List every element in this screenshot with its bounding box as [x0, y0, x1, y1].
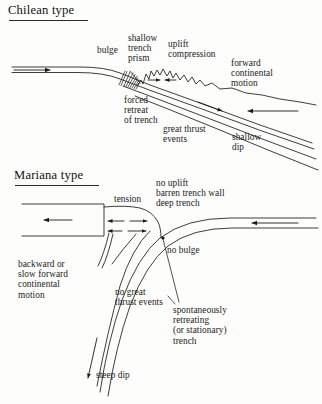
mariana-rift-sliver-3 [112, 234, 136, 264]
chilean-continent-top-surface [137, 69, 316, 105]
diagram-line-art [0, 0, 322, 404]
mariana-oceanic-base [108, 228, 318, 396]
chilean-oceanic-top-surface [12, 67, 312, 143]
chilean-slab-deep-boundary [135, 96, 318, 170]
mariana-trench-leader-line [163, 239, 179, 302]
mariana-rift-sliver-1 [98, 233, 109, 266]
chilean-slab-lower-boundary [123, 86, 316, 159]
mariana-steep-dip-arrow [88, 338, 97, 378]
mariana-no-thrust-leader-line [168, 296, 175, 304]
diagram-page: Chilean type bulge shallow trench prism … [0, 0, 322, 404]
mariana-oceanic-top-surface [100, 218, 316, 392]
chilean-thrust-arrow [198, 102, 222, 111]
mariana-trench-wall [104, 206, 161, 238]
